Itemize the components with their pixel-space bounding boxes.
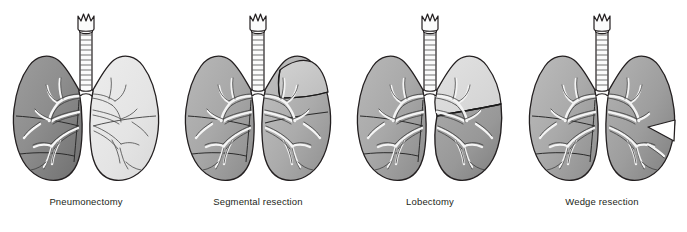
panel-wedge-resection: Wedge resection (516, 0, 687, 232)
resected-lobe-marker (435, 104, 502, 180)
right-lung-lobectomy (435, 56, 502, 180)
lung-diagram-lobectomy (344, 4, 516, 192)
right-lung-segmental (262, 56, 331, 180)
trachea-larynx (250, 14, 266, 96)
panel-pneumonectomy: Pneumonectomy (0, 0, 172, 232)
trachea-larynx (594, 14, 610, 96)
right-lung-pneumonectomy (90, 56, 159, 180)
resected-segment-marker (279, 60, 329, 98)
trachea-larynx (78, 14, 94, 96)
panel-label-wedge-resection: Wedge resection (516, 196, 687, 207)
panel-label-lobectomy: Lobectomy (344, 196, 516, 207)
left-lung-pneumonectomy (13, 56, 82, 180)
panel-label-pneumonectomy: Pneumonectomy (0, 196, 172, 207)
left-lung-lobectomy (357, 56, 426, 180)
trachea-larynx (422, 14, 438, 96)
lung-diagram-segmental-resection (172, 4, 344, 192)
panel-segmental-resection: Segmental resection (172, 0, 344, 232)
left-lung-segmental (185, 56, 254, 180)
panel-label-segmental-resection: Segmental resection (172, 196, 344, 207)
right-lung-wedge (606, 56, 675, 180)
left-lung-wedge (529, 56, 598, 180)
lung-diagram-wedge-resection (516, 4, 687, 192)
lung-resection-figure: Pneumonectomy (0, 0, 687, 232)
lung-diagram-pneumonectomy (0, 4, 172, 192)
panel-lobectomy: Lobectomy (344, 0, 516, 232)
